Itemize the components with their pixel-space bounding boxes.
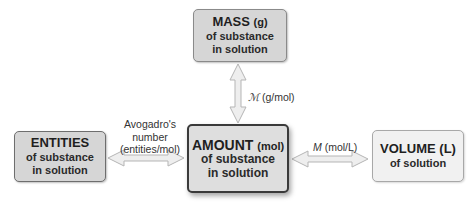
volume-title: VOLUME (L) (380, 142, 456, 157)
amount-title: AMOUNT (mol) (192, 137, 284, 153)
amount-line3: in solution (208, 167, 269, 181)
avogadro-label: Avogadro's number (entities/mol) (114, 118, 186, 156)
molarity-unit: (mol/L) (322, 141, 358, 153)
molar-mass-label: ℳ (g/mol) (248, 91, 295, 105)
molarity-symbol: M (313, 141, 322, 153)
avogadro-label-line1: Avogadro's (114, 118, 186, 131)
molarity-label: M (mol/L) (313, 141, 357, 154)
avogadro-label-line3: (entities/mol) (114, 143, 186, 156)
molar-mass-symbol: ℳ (248, 92, 259, 103)
entities-line2: of substance (26, 151, 94, 164)
double-arrow-mass-amount (230, 64, 246, 123)
molar-mass-unit: (g/mol) (259, 91, 295, 103)
avogadro-label-line2: number (114, 131, 186, 144)
entities-line3: in solution (32, 164, 88, 177)
mass-title: MASS (g) (212, 15, 267, 30)
mass-line2: of substance (206, 30, 274, 43)
mass-line3: in solution (212, 43, 268, 56)
volume-box: VOLUME (L) of solution (372, 130, 464, 182)
volume-line2: of solution (390, 157, 446, 170)
mass-box: MASS (g) of substance in solution (193, 9, 287, 62)
amount-box: AMOUNT (mol) of substance in solution (187, 124, 289, 193)
entities-title: ENTITIES (31, 136, 90, 151)
entities-box: ENTITIES of substance in solution (14, 131, 106, 182)
amount-line2: of substance (201, 153, 275, 167)
